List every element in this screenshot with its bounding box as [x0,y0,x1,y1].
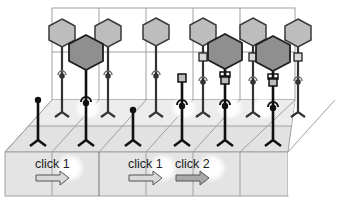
label-click-2: click 2 [175,157,210,171]
diagram-canvas: click 1 click 1 click 2 [0,0,340,201]
label-click-1-left: click 1 [35,157,70,171]
label-click-1-middle: click 1 [128,157,163,171]
